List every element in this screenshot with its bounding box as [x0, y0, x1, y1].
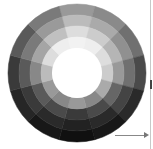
wheel-segment — [41, 64, 53, 83]
wheel-segment — [122, 58, 135, 88]
grayscale-wheel — [0, 0, 153, 149]
wheel-segment — [62, 118, 92, 131]
wheel-segment — [68, 97, 87, 109]
right-edge-tick — [150, 80, 152, 89]
wheel-segment — [30, 61, 42, 85]
wheel-segment — [65, 26, 89, 38]
right-edge-line — [150, 0, 151, 149]
wheel-center-hole — [52, 48, 102, 98]
wheel-segment — [19, 58, 32, 88]
wheel-segment — [62, 15, 92, 28]
arrow-line — [115, 135, 145, 136]
wheel-segment — [101, 64, 113, 83]
wheel-segment — [65, 108, 89, 120]
wheel-segment — [68, 37, 87, 49]
wheel-segment — [112, 61, 124, 85]
arrow-right-icon — [144, 132, 149, 138]
